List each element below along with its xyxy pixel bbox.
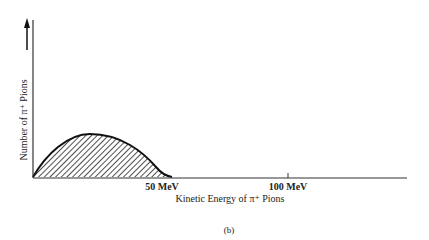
x-tick-label-50: 50 MeV — [145, 181, 179, 192]
x-axis-label: Kinetic Energy of π⁺ Pions — [175, 193, 284, 204]
y-axis-label-group: Number of π⁺ Pions — [18, 79, 29, 160]
spectrum-area — [33, 134, 172, 177]
y-axis-label: Number of π⁺ Pions — [18, 79, 29, 160]
figure-caption: (b) — [224, 225, 235, 235]
chart: 50 MeV 100 MeV Kinetic Energy of π⁺ Pion… — [0, 0, 429, 240]
y-arrow-head-icon — [24, 18, 30, 28]
x-tick-label-100: 100 MeV — [269, 181, 308, 192]
